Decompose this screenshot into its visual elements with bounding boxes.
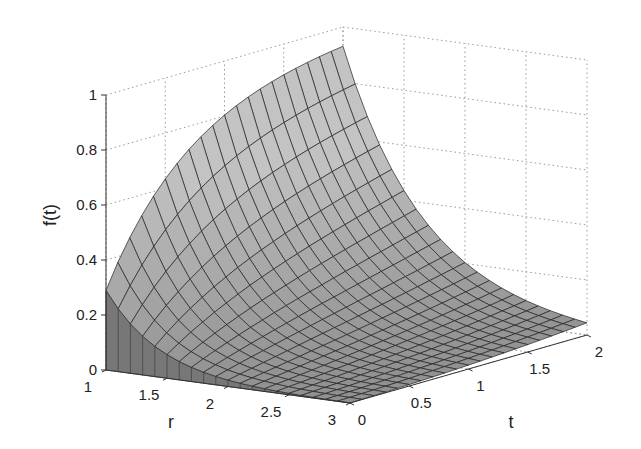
y-tick-label: 1.5 xyxy=(529,360,550,377)
z-tick-label: 0.8 xyxy=(76,141,97,158)
x-tick-label: 2 xyxy=(206,395,214,412)
x-axis-label: r xyxy=(168,412,174,432)
z-tick-label: 0 xyxy=(89,361,97,378)
z-axis-label: f(t) xyxy=(40,204,60,226)
x-tick-label: 1 xyxy=(84,378,92,395)
z-tick-label: 0.6 xyxy=(76,196,97,213)
y-tick-label: 2 xyxy=(595,343,603,360)
y-tick-label: 0 xyxy=(358,411,366,428)
y-axis-label: t xyxy=(508,412,513,432)
y-tick-label: 0.5 xyxy=(411,394,432,411)
x-tick-label: 3 xyxy=(328,411,336,428)
surface-plot: 00.20.40.60.8111.522.5300.511.52 f(t) r … xyxy=(0,0,641,449)
y-tick-label: 1 xyxy=(476,377,484,394)
z-tick-label: 1 xyxy=(89,86,97,103)
z-tick-label: 0.2 xyxy=(76,306,97,323)
z-tick-label: 0.4 xyxy=(76,251,97,268)
x-tick-label: 2.5 xyxy=(261,403,282,420)
x-tick-label: 1.5 xyxy=(139,386,160,403)
surface-mesh xyxy=(106,46,587,403)
